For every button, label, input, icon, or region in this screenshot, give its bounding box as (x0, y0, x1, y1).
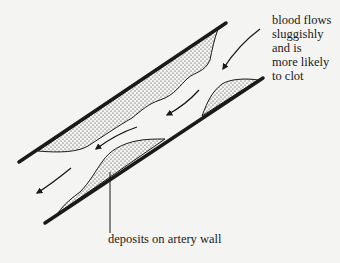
top-artery-wall (19, 23, 226, 162)
flow-arrow-exit (37, 168, 71, 193)
blood-flow-label: blood flows sluggishly and is more likel… (272, 13, 331, 83)
deposits-label: deposits on artery wall (108, 232, 222, 246)
lower-right-deposit (202, 79, 258, 116)
flow-arrow-entry (223, 29, 260, 69)
